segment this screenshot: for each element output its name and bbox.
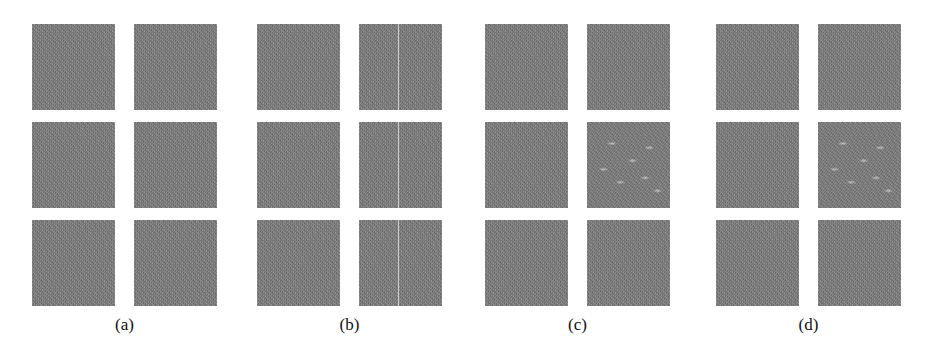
noise-tile <box>818 220 901 306</box>
noise-tile <box>134 24 217 110</box>
panel-a: (a) <box>32 0 222 356</box>
noise-tile <box>587 220 670 306</box>
noise-tile <box>359 24 442 110</box>
noise-tile <box>818 122 901 208</box>
noise-tile <box>587 24 670 110</box>
noise-tile <box>257 220 340 306</box>
noise-tile <box>587 122 670 208</box>
panel-label: (b) <box>257 315 442 335</box>
panel-label: (c) <box>485 315 670 335</box>
noise-tile <box>716 122 799 208</box>
noise-tile <box>359 122 442 208</box>
noise-tile <box>485 122 568 208</box>
noise-tile <box>485 220 568 306</box>
noise-tile <box>818 24 901 110</box>
noise-tile <box>32 220 115 306</box>
noise-tile <box>359 220 442 306</box>
noise-tile <box>32 24 115 110</box>
panel-label: (a) <box>32 315 217 335</box>
panel-c: (c) <box>485 0 675 356</box>
noise-tile <box>134 122 217 208</box>
panel-d: (d) <box>716 0 906 356</box>
noise-tile <box>716 24 799 110</box>
noise-tile <box>32 122 115 208</box>
panel-label: (d) <box>716 315 901 335</box>
noise-tile <box>257 122 340 208</box>
noise-tile <box>485 24 568 110</box>
panel-b: (b) <box>257 0 447 356</box>
noise-tile <box>134 220 217 306</box>
noise-tile <box>716 220 799 306</box>
noise-tile <box>257 24 340 110</box>
